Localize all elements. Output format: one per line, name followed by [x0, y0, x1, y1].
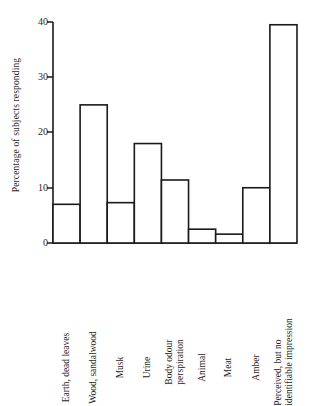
x-axis-labels: Earth, dead leavesWood, sandalwoodMuskUr… — [0, 248, 316, 373]
x-axis-label-line: Body odour — [164, 340, 174, 385]
bar — [161, 180, 188, 243]
x-axis-label-text: Urine — [142, 357, 153, 379]
x-axis-label-line: Wood, sandalwood — [88, 331, 98, 404]
x-axis-label-text: Body odourperspiration — [164, 339, 186, 384]
x-axis-label: Meat — [216, 250, 243, 373]
x-axis-label-text: Musk — [115, 357, 126, 379]
x-axis-label-line: identifiable impression — [283, 318, 294, 405]
x-axis-label-text: Meat — [224, 358, 235, 378]
x-axis-label-text: Animal — [197, 353, 208, 382]
x-axis-label: Wood, sandalwood — [80, 250, 107, 373]
x-axis-label-text: Earth, dead leaves — [61, 333, 72, 402]
x-axis-label-line: perspiration — [175, 339, 186, 384]
x-axis-label: Animal — [189, 250, 216, 373]
bar — [216, 234, 243, 243]
x-axis-label-line: Earth, dead leaves — [61, 333, 71, 402]
bar — [107, 203, 134, 243]
x-axis-label: Earth, dead leaves — [53, 250, 80, 373]
x-axis-label-line: Animal — [197, 353, 207, 382]
x-axis-label-line: Meat — [224, 358, 234, 378]
x-axis-label: Body odourperspiration — [161, 250, 188, 373]
bar — [270, 25, 297, 243]
bar — [243, 188, 270, 243]
x-axis-label-line: Urine — [142, 357, 152, 379]
bar-series — [53, 25, 297, 243]
plot-area — [0, 0, 316, 250]
x-axis-label-text: Perceived, but noidentifiable impression — [272, 318, 294, 405]
x-axis-label-line: Amber — [251, 354, 261, 380]
x-axis-label-text: Wood, sandalwood — [88, 331, 99, 404]
x-axis-label: Perceived, but noidentifiable impression — [270, 250, 297, 373]
x-axis-label-line: Perceived, but no — [272, 339, 282, 405]
x-axis-label-text: Amber — [251, 354, 262, 380]
x-axis-label: Urine — [134, 250, 161, 373]
bar — [134, 144, 161, 243]
bar — [53, 204, 80, 243]
bar — [189, 229, 216, 243]
x-axis-label: Amber — [243, 250, 270, 373]
x-axis-label: Musk — [107, 250, 134, 373]
bar — [80, 105, 107, 243]
x-axis-label-line: Musk — [115, 357, 125, 379]
